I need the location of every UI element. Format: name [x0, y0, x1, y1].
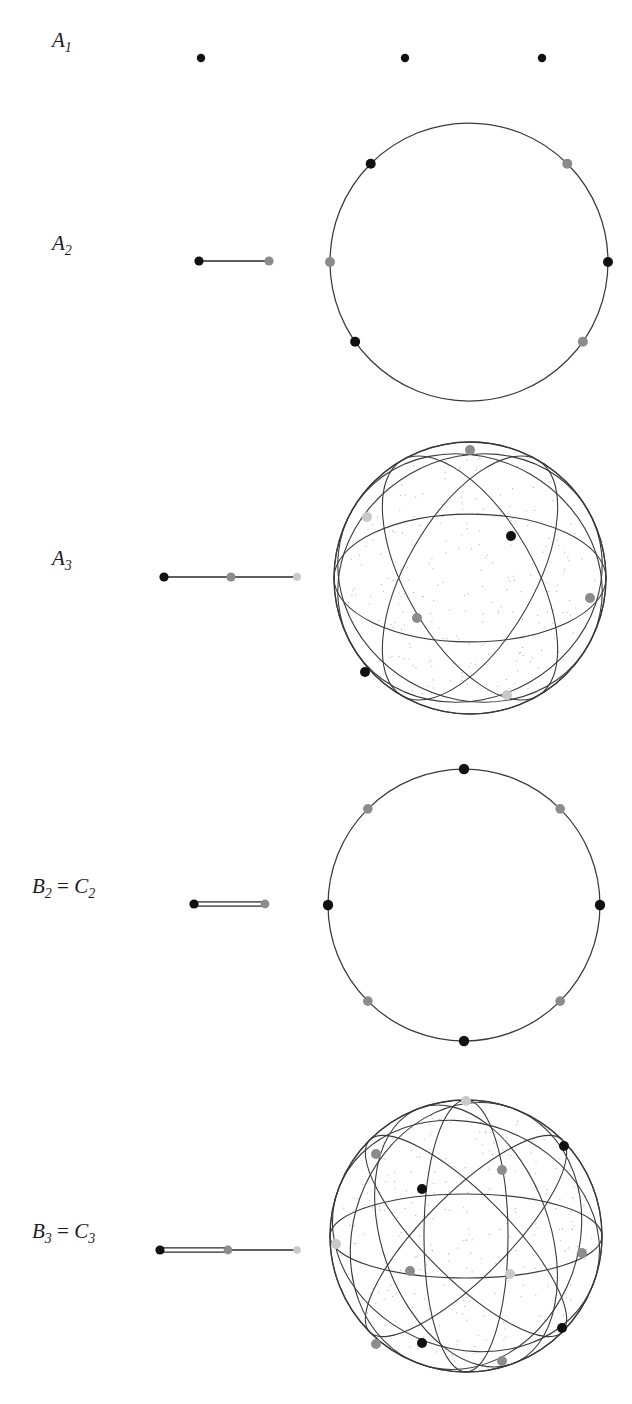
- stipple-dot: [415, 667, 416, 668]
- stipple-dot: [480, 1122, 481, 1123]
- stipple-dot: [572, 1229, 573, 1230]
- sphere-vertex-light-1: [362, 512, 372, 522]
- stipple-dot: [481, 1258, 482, 1259]
- label-equals: =: [52, 1219, 74, 1243]
- arrangement-point-gray-3: [363, 996, 373, 1006]
- stipple-dot: [472, 1271, 473, 1272]
- stipple-dot: [516, 660, 517, 661]
- stipple-dot: [485, 1131, 486, 1132]
- stipple-dot: [431, 558, 432, 559]
- stipple-dot: [506, 1223, 507, 1224]
- stipple-dot: [462, 509, 463, 510]
- stipple-dot: [359, 555, 360, 556]
- stipple-dot: [509, 688, 510, 689]
- stipple-dot: [564, 1250, 565, 1251]
- stipple-dot: [497, 685, 498, 686]
- stipple-dot: [411, 1150, 412, 1151]
- stipple-dot: [413, 516, 414, 517]
- stipple-dot: [380, 554, 381, 555]
- stipple-dot: [400, 1270, 401, 1271]
- stipple-dot: [461, 534, 462, 535]
- label-base: A: [50, 28, 65, 52]
- stipple-dot: [470, 663, 471, 664]
- sphere-vertex-gray-8: [577, 1248, 587, 1258]
- stipple-dot: [502, 1149, 503, 1150]
- stipple-dot: [433, 1193, 434, 1194]
- sphere-vertex-light-0: [461, 1096, 471, 1106]
- stipple-dot: [538, 667, 539, 668]
- stipple-dot: [566, 612, 567, 613]
- stipple-dot: [483, 509, 484, 510]
- stipple-dot: [472, 1239, 473, 1240]
- stipple-dot: [470, 1253, 471, 1254]
- stipple-dot: [512, 611, 513, 612]
- sphere-great-circle-4: [340, 1110, 592, 1362]
- stipple-dot: [459, 469, 460, 470]
- sphere-vertex-gray-12: [497, 1356, 507, 1366]
- stipple-dot: [467, 1212, 468, 1213]
- stipple-dot: [430, 1133, 431, 1134]
- stipple-dot: [534, 1268, 535, 1269]
- stipple-dot: [381, 584, 382, 585]
- stipple-dot: [506, 589, 507, 590]
- stipple-dot: [562, 1228, 563, 1229]
- stipple-dot: [512, 488, 513, 489]
- stipple-dot: [384, 1298, 385, 1299]
- stipple-dot: [414, 1293, 415, 1294]
- stipple-dot: [404, 624, 405, 625]
- stipple-dot: [377, 517, 378, 518]
- stipple-dot: [498, 612, 499, 613]
- stipple-dot: [469, 1301, 470, 1302]
- coxeter-reflection-arrangements-figure: A1A2A3B2 = C2B3 = C3: [0, 0, 632, 1404]
- stipple-dot: [462, 1313, 463, 1314]
- stipple-dot: [431, 1244, 432, 1245]
- label-sub: 3: [64, 558, 72, 573]
- label-sub: 1: [65, 40, 72, 55]
- stipple-dot: [434, 1171, 435, 1172]
- stipple-dot: [445, 552, 446, 553]
- stipple-dot: [566, 1293, 567, 1294]
- sphere-vertex-gray-3: [412, 613, 422, 623]
- stipple-dot: [563, 571, 564, 572]
- stipple-dot: [506, 1137, 507, 1138]
- stipple-dot: [484, 643, 485, 644]
- stipple-dot: [400, 569, 401, 570]
- sphere-vertex-gray-4: [497, 1165, 507, 1175]
- stipple-dot: [395, 561, 396, 562]
- stipple-dot: [392, 1296, 393, 1297]
- stipple-dot: [431, 666, 432, 667]
- stipple-dot: [469, 1234, 470, 1235]
- sphere-great-circle-5: [292, 406, 632, 750]
- stipple-dot: [399, 656, 400, 657]
- stipple-dot: [489, 1150, 490, 1151]
- stipple-dot: [544, 1139, 545, 1140]
- stipple-dot: [563, 1315, 564, 1316]
- stipple-dot: [569, 560, 570, 561]
- stipple-dot: [361, 564, 362, 565]
- stipple-dot: [461, 497, 462, 498]
- sphere-vertex-light-5: [331, 1239, 341, 1249]
- stipple-dot: [586, 1249, 587, 1250]
- stipple-dot: [406, 1190, 407, 1191]
- stipple-dot: [429, 1124, 430, 1125]
- stipple-dot: [480, 570, 481, 571]
- arrangement-point-gray-5: [555, 996, 565, 1006]
- stipple-dot: [506, 679, 507, 680]
- stipple-dot: [559, 1158, 560, 1159]
- stipple-dot: [367, 529, 368, 530]
- stipple-dot: [363, 1233, 364, 1234]
- stipple-dot: [427, 685, 428, 686]
- stipple-dot: [546, 582, 547, 583]
- arrangement-point-black-3: [603, 257, 613, 267]
- stipple-dot: [527, 688, 528, 689]
- stipple-dot: [429, 563, 430, 564]
- stipple-dot: [462, 1240, 463, 1241]
- stipple-dot: [467, 683, 468, 684]
- stipple-dot: [474, 1346, 475, 1347]
- stipple-dot: [437, 585, 438, 586]
- stipple-dot: [515, 1208, 516, 1209]
- stipple-dot: [393, 626, 394, 627]
- stipple-dot: [531, 657, 532, 658]
- stipple-dot: [369, 1200, 370, 1201]
- sphere-great-circle-2: [340, 1110, 592, 1362]
